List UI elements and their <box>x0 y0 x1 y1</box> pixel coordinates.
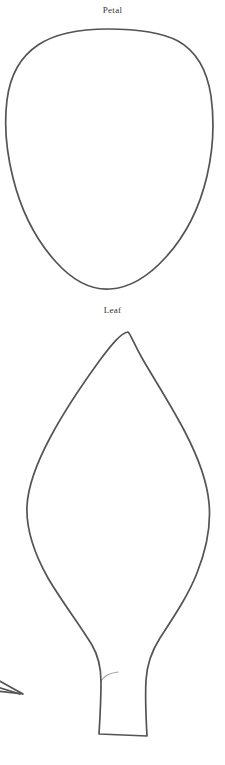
leaf-label: Leaf <box>0 305 225 316</box>
template-page: Petal Leaf <box>0 0 225 765</box>
shape-drawing-canvas <box>0 0 225 765</box>
leaf-stem-accent-line <box>101 672 118 681</box>
petal-label: Petal <box>0 5 225 16</box>
leaf-outline-shape <box>27 332 210 736</box>
petal-outline-shape <box>6 29 213 289</box>
